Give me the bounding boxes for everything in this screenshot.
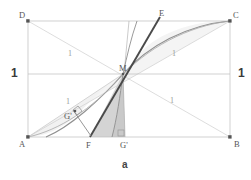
tangent-line-fme <box>90 17 160 137</box>
unit-label-upper-right: 1 <box>172 50 176 58</box>
vertex-label-C: C <box>233 11 239 19</box>
vertex-label-G-prime-upper: G' <box>64 112 72 120</box>
vertex-label-D: D <box>19 11 25 19</box>
unit-label-right-side: 1 <box>238 69 245 77</box>
unit-label-left-side: 1 <box>11 69 18 77</box>
unit-label-lower-right: 1 <box>170 97 174 105</box>
figure-canvas: A B C D M E F G' G' 1 1 1 1 1 1 a <box>0 0 251 180</box>
vertex-label-M: M <box>119 64 127 72</box>
vertex-label-G-prime-axis: G' <box>120 141 128 149</box>
unit-label-lower-left: 1 <box>66 98 70 106</box>
vertex-label-E: E <box>159 9 164 17</box>
vertex-label-B: B <box>234 140 240 148</box>
curve-logarithmic <box>46 21 230 137</box>
unit-label-upper-left: 1 <box>68 50 72 58</box>
vertex-label-A: A <box>19 140 25 148</box>
geometry-diagram <box>0 0 251 180</box>
axis-caption-a: a <box>122 161 128 169</box>
vertex-label-F: F <box>86 141 91 149</box>
